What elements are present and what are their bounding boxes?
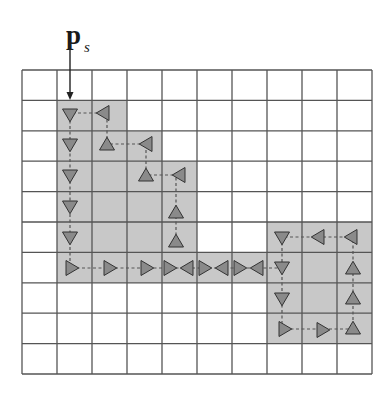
grid-diagram — [0, 0, 391, 393]
start-arrow — [67, 42, 74, 100]
shaded-cell — [92, 192, 127, 222]
shaded-cell — [92, 161, 127, 191]
shaded-cell — [57, 161, 92, 191]
shaded-cell — [57, 131, 92, 161]
shaded-cell — [92, 222, 127, 252]
shaded-cell — [162, 222, 197, 252]
shaded-cell — [302, 252, 337, 282]
shaded-cell — [127, 192, 162, 222]
shaded-cell — [302, 283, 337, 313]
shaded-cell — [57, 100, 92, 130]
arrow-head-icon — [67, 92, 74, 100]
shaded-cell — [127, 222, 162, 252]
